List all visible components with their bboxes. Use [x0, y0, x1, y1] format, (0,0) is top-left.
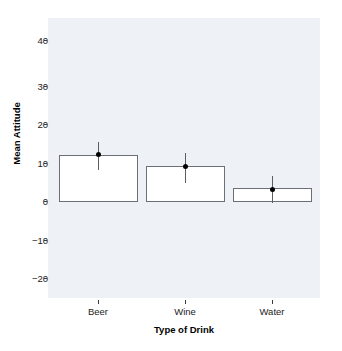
y-tick-mark-neg20: [44, 278, 47, 279]
x-tick-mark-wine: [185, 300, 186, 304]
plot-panel-lower: [48, 202, 320, 298]
y-tick-mark-30: [44, 86, 47, 87]
bar-chart: 40 30 20 10 0 −10 −20 Mean Attitude Beer…: [0, 0, 342, 351]
y-tick-mark-neg10: [44, 240, 47, 241]
mean-point-beer: [96, 152, 101, 157]
y-tick-label-neg10: −10: [6, 236, 48, 246]
y-tick-mark-10: [44, 163, 47, 164]
y-tick-mark-40: [44, 40, 47, 41]
y-axis: 40 30 20 10 0 −10 −20 Mean Attitude: [0, 0, 48, 351]
x-tick-mark-water: [272, 300, 273, 304]
x-axis-title: Type of Drink: [48, 324, 320, 335]
y-tick-mark-0: [44, 201, 47, 202]
mean-point-water: [270, 187, 275, 192]
x-tick-label-water: Water: [227, 306, 317, 317]
mean-point-wine: [183, 164, 188, 169]
x-tick-label-wine: Wine: [140, 306, 230, 317]
y-tick-label-40: 40: [6, 36, 48, 46]
y-tick-label-0: 0: [6, 197, 48, 207]
x-tick-label-beer: Beer: [53, 306, 143, 317]
y-tick-mark-20: [44, 124, 47, 125]
y-axis-title: Mean Attitude: [11, 84, 22, 184]
x-tick-mark-beer: [98, 300, 99, 304]
y-tick-label-neg20: −20: [6, 274, 48, 284]
